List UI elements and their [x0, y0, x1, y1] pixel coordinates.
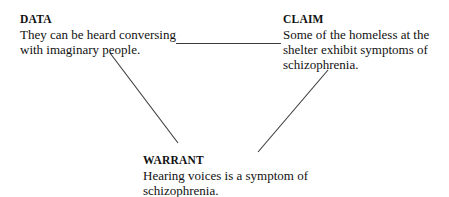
node-data: DATA They can be heard conversing with i…: [20, 12, 200, 57]
node-warrant-heading: WARRANT: [143, 153, 343, 167]
diagram-canvas: DATA They can be heard conversing with i…: [0, 0, 449, 197]
node-warrant: WARRANT Hearing voices is a symptom of s…: [143, 153, 343, 197]
node-claim-heading: CLAIM: [283, 12, 443, 26]
connector-data-to-warrant: [110, 53, 178, 143]
node-claim: CLAIM Some of the homeless at the shelte…: [283, 12, 443, 73]
node-warrant-body: Hearing voices is a symptom of schizophr…: [143, 168, 343, 197]
node-data-heading: DATA: [20, 12, 200, 26]
connector-warrant-to-claim: [258, 70, 328, 152]
node-claim-body: Some of the homeless at the shelter exhi…: [283, 27, 443, 73]
node-data-body: They can be heard conversing with imagin…: [20, 27, 200, 57]
